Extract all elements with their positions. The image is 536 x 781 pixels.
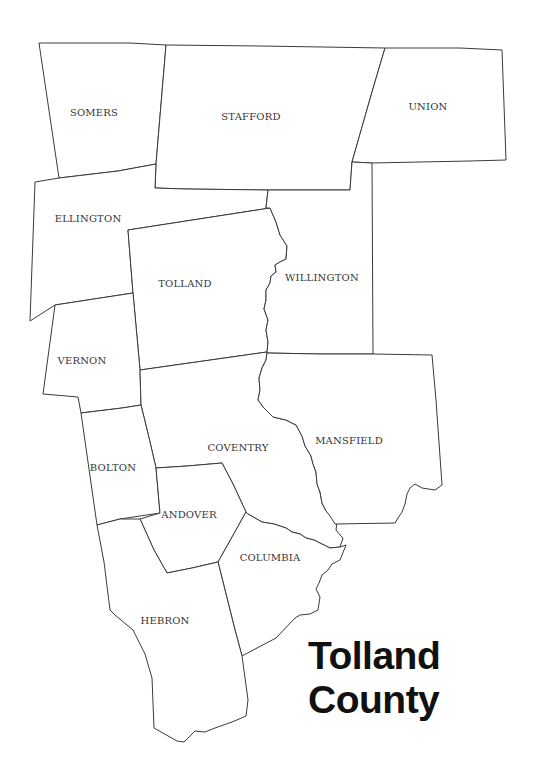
town-tolland[interactable] — [128, 208, 287, 370]
tolland-county-map: SOMERS STAFFORD UNION ELLINGTON TOLLAND … — [0, 0, 536, 781]
town-label-hebron: HEBRON — [140, 615, 189, 626]
town-label-somers: SOMERS — [70, 107, 118, 118]
town-label-ellington: ELLINGTON — [55, 213, 122, 224]
county-title: Tolland County — [308, 634, 440, 722]
town-label-stafford: STAFFORD — [221, 111, 280, 122]
town-label-andover: ANDOVER — [160, 509, 217, 520]
town-label-coventry: COVENTRY — [207, 442, 268, 453]
town-label-tolland: TOLLAND — [158, 278, 212, 289]
county-title-line1: Tolland — [308, 634, 440, 678]
town-label-mansfield: MANSFIELD — [315, 435, 383, 446]
town-label-union: UNION — [408, 101, 447, 112]
town-label-columbia: COLUMBIA — [240, 552, 301, 563]
town-label-willington: WILLINGTON — [285, 272, 359, 283]
town-vernon[interactable] — [43, 293, 141, 413]
town-label-vernon: VERNON — [57, 355, 107, 366]
town-label-bolton: BOLTON — [90, 462, 136, 473]
county-title-line2: County — [308, 678, 440, 722]
